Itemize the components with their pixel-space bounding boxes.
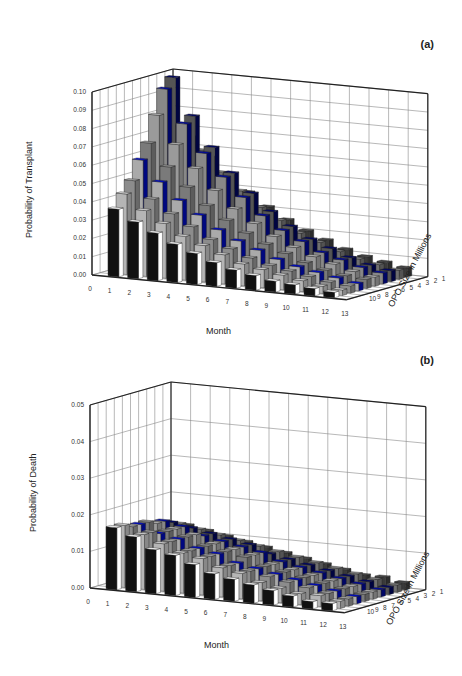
bar-front bbox=[108, 208, 119, 277]
z-tick: 4 bbox=[416, 595, 420, 602]
y-tick: 0.01 bbox=[71, 547, 84, 554]
x-tick: 3 bbox=[145, 604, 149, 611]
z-tick: 4 bbox=[418, 282, 422, 289]
bar-side bbox=[315, 287, 319, 296]
bar-side bbox=[176, 554, 180, 596]
bar-side bbox=[332, 602, 336, 611]
bar-side bbox=[373, 591, 377, 600]
x-tick: 3 bbox=[147, 291, 151, 298]
z-tick: 10 bbox=[367, 608, 375, 615]
bar-side bbox=[215, 573, 219, 600]
z-tick: 2 bbox=[432, 590, 436, 597]
y-axis-label-a: Probability of Transplant bbox=[24, 141, 34, 238]
bar-side bbox=[236, 269, 240, 289]
bar-side bbox=[197, 252, 201, 284]
bar-front bbox=[184, 564, 195, 598]
x-tick: 4 bbox=[165, 606, 169, 613]
bar-front bbox=[147, 232, 158, 281]
bar-side bbox=[156, 549, 160, 594]
y-tick: 0.09 bbox=[73, 106, 86, 113]
panel-label-b: (b) bbox=[420, 354, 434, 366]
x-tick: 10 bbox=[280, 617, 288, 624]
bar-side bbox=[117, 526, 121, 589]
z-tick: 9 bbox=[377, 293, 381, 300]
bar-side bbox=[178, 243, 182, 283]
bars bbox=[106, 519, 410, 611]
bar-side bbox=[256, 274, 260, 290]
bar-side bbox=[119, 208, 123, 277]
x-tick: 11 bbox=[302, 306, 309, 313]
bar-side bbox=[383, 272, 387, 284]
bar-front bbox=[243, 584, 254, 603]
z-tick: 8 bbox=[383, 604, 387, 611]
y-tick: 0.10 bbox=[73, 88, 86, 95]
y-tick: 0.02 bbox=[73, 234, 86, 241]
bar-side bbox=[254, 584, 258, 604]
x-tick: 0 bbox=[88, 285, 92, 292]
x-tick: 8 bbox=[245, 300, 249, 307]
bar-side bbox=[217, 261, 221, 286]
bar-front bbox=[322, 602, 333, 610]
panel-label-a: (a) bbox=[421, 38, 434, 50]
z-tick: 10 bbox=[369, 295, 377, 302]
x-tick: 11 bbox=[300, 619, 307, 626]
chart-panel-a: 0.000.010.020.030.040.050.060.070.080.09… bbox=[0, 0, 462, 340]
x-tick: 13 bbox=[341, 310, 349, 317]
z-tick: 3 bbox=[426, 279, 430, 286]
bar-front bbox=[167, 243, 178, 282]
z-tick: 5 bbox=[409, 284, 413, 291]
x-tick: 4 bbox=[167, 293, 171, 300]
bar-side bbox=[234, 578, 238, 601]
z-tick: 1 bbox=[440, 588, 444, 595]
x-tick: 5 bbox=[186, 295, 190, 302]
z-tick: 3 bbox=[424, 592, 428, 599]
bar-side bbox=[381, 588, 385, 597]
bar-front bbox=[224, 578, 235, 601]
z-tick: 9 bbox=[375, 606, 379, 613]
z-tick: 1 bbox=[442, 275, 446, 282]
x-tick: 7 bbox=[223, 611, 227, 618]
bar-side bbox=[293, 595, 297, 607]
y-tick: 0.06 bbox=[73, 161, 86, 168]
bar-side bbox=[276, 280, 280, 292]
y-tick: 0.05 bbox=[71, 401, 84, 408]
bar-front bbox=[204, 573, 215, 600]
z-tick: 2 bbox=[434, 277, 438, 284]
bar-front bbox=[145, 549, 156, 594]
bar-side bbox=[138, 221, 142, 279]
bar-front bbox=[304, 288, 315, 296]
bar-front bbox=[265, 280, 276, 292]
x-tick: 6 bbox=[204, 609, 208, 616]
x-tick: 10 bbox=[282, 304, 290, 311]
bar-front bbox=[186, 252, 197, 284]
bar-side bbox=[295, 284, 299, 294]
x-axis-label-a: Month bbox=[206, 326, 231, 336]
x-tick: 1 bbox=[106, 600, 110, 607]
bar-side bbox=[365, 593, 369, 602]
bar-side bbox=[351, 285, 355, 294]
bar-front bbox=[126, 536, 137, 592]
bar-side bbox=[375, 276, 379, 286]
bar-side bbox=[349, 598, 353, 607]
bar-side bbox=[367, 278, 371, 288]
bar-front bbox=[226, 269, 237, 288]
x-tick: 12 bbox=[322, 308, 330, 315]
x-tick: 2 bbox=[125, 602, 129, 609]
bar-side bbox=[158, 232, 162, 281]
y-tick: 0.08 bbox=[73, 125, 86, 132]
bar-front bbox=[302, 601, 313, 609]
x-tick: 8 bbox=[243, 613, 247, 620]
x-tick: 7 bbox=[225, 298, 229, 305]
x-tick: 6 bbox=[206, 296, 210, 303]
y-tick: 0.05 bbox=[73, 180, 86, 187]
bar-front bbox=[282, 595, 293, 607]
y-tick: 0.01 bbox=[73, 253, 86, 260]
bar-front bbox=[206, 262, 217, 287]
y-tick: 0.00 bbox=[73, 271, 86, 278]
bar-side bbox=[357, 595, 361, 604]
bar-side bbox=[391, 269, 395, 281]
x-tick: 9 bbox=[265, 302, 269, 309]
y-tick: 0.04 bbox=[73, 198, 86, 205]
bar-front bbox=[263, 589, 274, 605]
chart-panel-b: 0.000.010.020.030.040.050123456789101112… bbox=[0, 340, 462, 676]
